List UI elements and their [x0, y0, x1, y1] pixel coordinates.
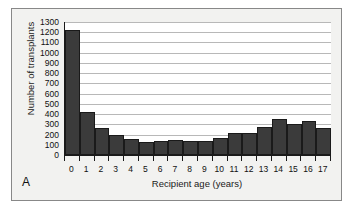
bar [154, 141, 169, 155]
x-tick-mark [286, 156, 287, 161]
bar [213, 138, 228, 155]
x-tick-mark [300, 156, 301, 161]
y-axis-tick-labels: 1300120011001000900800700600500400300200… [32, 22, 59, 155]
x-tick-label: 1 [79, 163, 94, 175]
y-tick-label: 700 [45, 79, 59, 88]
bar [65, 30, 80, 155]
y-tick-label: 100 [45, 141, 59, 150]
x-tick-label: 2 [94, 163, 109, 175]
x-tick-mark [79, 156, 80, 161]
bar [316, 128, 331, 155]
y-tick-label: 1200 [40, 28, 59, 37]
x-axis-title: Recipient age (years) [64, 178, 330, 189]
x-tick-mark [197, 156, 198, 161]
bar [168, 140, 183, 155]
x-tick-label: 9 [197, 163, 212, 175]
x-tick-mark [108, 156, 109, 161]
x-axis-tick-labels: 01234567891011121314151617 [64, 163, 330, 175]
x-tick-mark [330, 156, 331, 161]
panel-letter: A [22, 175, 30, 189]
bar [287, 124, 302, 155]
y-tick-label: 500 [45, 100, 59, 109]
x-tick-label: 14 [271, 163, 286, 175]
x-tick-mark [271, 156, 272, 161]
y-tick-label: 1100 [41, 38, 59, 47]
bar [228, 133, 243, 156]
y-tick-label: 600 [45, 89, 59, 98]
plot-area [64, 22, 331, 156]
x-tick-label: 0 [64, 163, 79, 175]
x-tick-label: 17 [315, 163, 330, 175]
x-tick-label: 12 [241, 163, 256, 175]
y-tick-label: 300 [45, 120, 59, 129]
y-tick-label: 1300 [40, 18, 59, 27]
y-tick-label: 900 [45, 59, 59, 68]
bar [80, 112, 95, 155]
x-tick-label: 4 [123, 163, 138, 175]
y-tick-label: 200 [45, 130, 59, 139]
bar [183, 141, 198, 155]
x-tick-label: 3 [108, 163, 123, 175]
x-tick-label: 5 [138, 163, 153, 175]
bar [109, 135, 124, 155]
bar [139, 142, 154, 155]
x-tick-mark [94, 156, 95, 161]
y-tick-label: 800 [45, 69, 59, 78]
bar [257, 127, 272, 155]
x-tick-mark [64, 156, 65, 161]
y-tick-label: 0 [54, 151, 59, 160]
x-tick-mark [167, 156, 168, 161]
y-tick-label: 400 [45, 110, 59, 119]
x-tick-label: 16 [301, 163, 316, 175]
bar [242, 133, 257, 155]
bar [124, 139, 139, 155]
x-tick-label: 11 [227, 163, 242, 175]
x-tick-mark [138, 156, 139, 161]
x-axis-tick-marks [64, 156, 330, 162]
x-tick-mark [212, 156, 213, 161]
bar [95, 128, 110, 155]
x-tick-mark [227, 156, 228, 161]
figure-panel: Number of transplants 130012001100100090… [11, 8, 342, 201]
x-tick-mark [123, 156, 124, 161]
x-tick-mark [153, 156, 154, 161]
x-tick-label: 6 [153, 163, 168, 175]
bar-series [65, 22, 331, 155]
x-tick-mark [256, 156, 257, 161]
x-tick-label: 8 [182, 163, 197, 175]
x-tick-label: 7 [167, 163, 182, 175]
bar [272, 119, 287, 155]
x-tick-mark [241, 156, 242, 161]
x-tick-mark [315, 156, 316, 161]
x-tick-label: 13 [256, 163, 271, 175]
x-tick-label: 15 [286, 163, 301, 175]
y-tick-label: 1000 [40, 48, 59, 57]
bar [198, 141, 213, 155]
x-tick-mark [182, 156, 183, 161]
bar [302, 121, 317, 155]
x-tick-label: 10 [212, 163, 227, 175]
